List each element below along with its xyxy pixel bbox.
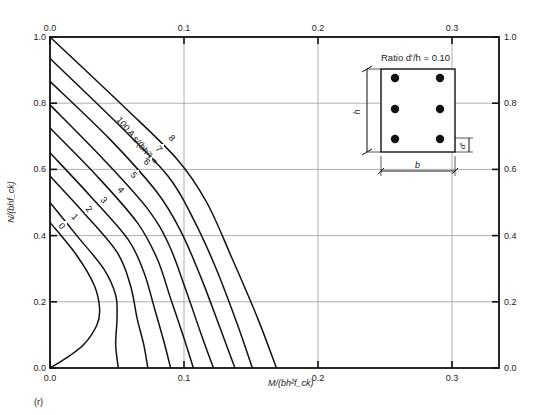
curve-0 xyxy=(50,222,100,368)
interaction-curves xyxy=(50,37,276,368)
rebar-dot xyxy=(436,135,444,143)
y-tick-label-left: 0.4 xyxy=(33,231,46,241)
curve-5 xyxy=(50,105,213,368)
interaction-diagram-chart: 0.00.00.10.10.20.20.30.30.00.00.20.20.40… xyxy=(0,0,537,415)
inset-title: Ratio d'/h = 0.10 xyxy=(381,52,450,63)
rebar-dot xyxy=(391,74,399,82)
x-axis-label: M/(bh²f_ck) xyxy=(268,378,314,388)
y-tick-label-left: 0.6 xyxy=(33,164,46,174)
y-tick-label-left: 0.0 xyxy=(33,363,46,373)
y-tick-label-right: 1.0 xyxy=(504,32,517,42)
inset-d-label: d' xyxy=(458,143,467,149)
inset-h-label: h xyxy=(352,109,362,114)
rebar-dot xyxy=(391,135,399,143)
y-tick-label-right: 0.2 xyxy=(504,297,517,307)
panel-label: (r) xyxy=(34,397,43,407)
rebar-dot xyxy=(391,105,399,113)
x-tick-label-top: 0.2 xyxy=(312,23,325,33)
y-tick-label-left: 0.8 xyxy=(33,98,46,108)
section-inset: Ratio d'/h = 0.10 h b d' xyxy=(352,52,473,176)
inset-b-label: b xyxy=(415,160,420,170)
y-tick-label-right: 0.4 xyxy=(504,231,517,241)
x-tick-label-bottom: 0.2 xyxy=(312,373,325,383)
y-tick-label-left: 1.0 xyxy=(33,32,46,42)
curve-3 xyxy=(50,153,171,368)
x-tick-label-bottom: 0.1 xyxy=(178,373,191,383)
y-tick-label-right: 0.8 xyxy=(504,98,517,108)
rebar-dot xyxy=(436,105,444,113)
y-axis-label: N/(bhf_ck) xyxy=(6,181,16,223)
x-tick-label-top: 0.1 xyxy=(178,23,191,33)
y-tick-label-left: 0.2 xyxy=(33,297,46,307)
x-tick-label-bottom: 0.0 xyxy=(44,373,57,383)
curve-family-label: 100 A s/(bh²) = xyxy=(114,115,159,166)
rebar-dot xyxy=(436,74,444,82)
curve-8 xyxy=(50,37,276,368)
y-tick-label-right: 0.6 xyxy=(504,164,517,174)
x-tick-label-top: 0.3 xyxy=(446,23,459,33)
x-tick-label-bottom: 0.3 xyxy=(446,373,459,383)
y-tick-label-right: 0.0 xyxy=(504,363,517,373)
